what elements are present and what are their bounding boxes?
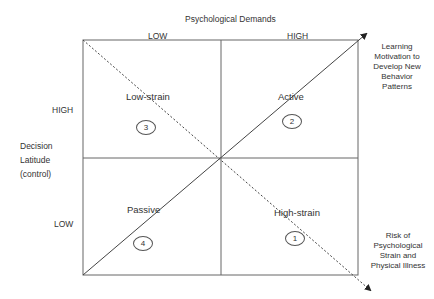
quadrant-number-4: 4 — [133, 236, 153, 251]
quadrant-number-2: 2 — [282, 114, 302, 129]
learning-arrow-label: Learning Motivation to Develop New Behav… — [360, 42, 434, 92]
quadrant-label-passive: Passive — [127, 204, 160, 215]
y-axis-title-line-1: Decision — [20, 139, 53, 153]
y-axis-title-line-3: (control) — [20, 167, 53, 181]
strain-arrow — [83, 40, 370, 290]
quadrant-label-low-strain: Low-strain — [126, 91, 170, 102]
learning-label-line-2: Motivation to — [360, 52, 434, 62]
learning-label-line-5: Patterns — [360, 82, 434, 92]
learning-label-line-4: Behavior — [360, 72, 434, 82]
learning-label-line-3: Develop New — [360, 62, 434, 72]
y-axis-high-label: HIGH — [52, 105, 73, 115]
learning-label-line-1: Learning — [360, 42, 434, 52]
y-axis-title: Decision Latitude (control) — [20, 139, 53, 181]
strain-label-line-3: Strain and — [362, 251, 434, 261]
strain-label-line-4: Physical Illness — [362, 261, 434, 271]
strain-label-line-1: Risk of — [362, 231, 434, 241]
x-axis-low-label: LOW — [148, 31, 167, 41]
x-axis-high-label: HIGH — [287, 31, 308, 41]
quadrant-label-active: Active — [278, 91, 304, 102]
y-axis-low-label: LOW — [54, 219, 73, 229]
quadrant-label-high-strain: High-strain — [274, 207, 320, 218]
strain-label-line-2: Psychological — [362, 241, 434, 251]
diagram-title: Psychological Demands — [185, 14, 276, 24]
quadrant-number-1: 1 — [285, 231, 305, 246]
strain-arrow-label: Risk of Psychological Strain and Physica… — [362, 231, 434, 271]
learning-arrow — [83, 34, 366, 275]
quadrant-number-3: 3 — [136, 120, 156, 135]
y-axis-title-line-2: Latitude — [20, 153, 53, 167]
